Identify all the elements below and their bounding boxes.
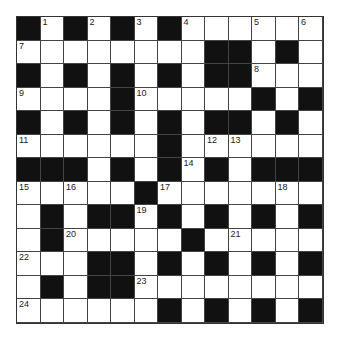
answer-cell[interactable] (229, 252, 253, 276)
answer-cell[interactable] (182, 41, 206, 65)
answer-cell[interactable]: 7 (17, 41, 41, 65)
answer-cell[interactable]: 21 (229, 229, 253, 253)
answer-cell[interactable] (182, 252, 206, 276)
answer-cell[interactable]: 1 (41, 17, 65, 41)
answer-cell[interactable]: 5 (252, 17, 276, 41)
answer-cell[interactable] (111, 135, 135, 159)
answer-cell[interactable] (41, 252, 65, 276)
answer-cell[interactable]: 11 (17, 135, 41, 159)
answer-cell[interactable] (41, 299, 65, 323)
answer-cell[interactable] (205, 229, 229, 253)
answer-cell[interactable] (276, 276, 300, 300)
answer-cell[interactable] (252, 229, 276, 253)
answer-cell[interactable]: 14 (182, 158, 206, 182)
answer-cell[interactable] (229, 205, 253, 229)
answer-cell[interactable]: 3 (135, 17, 159, 41)
answer-cell[interactable] (64, 276, 88, 300)
answer-cell[interactable]: 9 (17, 88, 41, 112)
answer-cell[interactable] (111, 229, 135, 253)
answer-cell[interactable] (88, 299, 112, 323)
answer-cell[interactable] (229, 276, 253, 300)
answer-cell[interactable] (182, 88, 206, 112)
answer-cell[interactable]: 17 (158, 182, 182, 206)
answer-cell[interactable] (205, 182, 229, 206)
answer-cell[interactable] (41, 41, 65, 65)
answer-cell[interactable] (276, 17, 300, 41)
answer-cell[interactable] (276, 229, 300, 253)
answer-cell[interactable] (41, 64, 65, 88)
answer-cell[interactable]: 2 (88, 17, 112, 41)
answer-cell[interactable] (135, 41, 159, 65)
answer-cell[interactable] (158, 276, 182, 300)
answer-cell[interactable] (182, 182, 206, 206)
answer-cell[interactable] (17, 276, 41, 300)
answer-cell[interactable] (299, 41, 323, 65)
answer-cell[interactable] (64, 252, 88, 276)
answer-cell[interactable]: 22 (17, 252, 41, 276)
answer-cell[interactable] (64, 205, 88, 229)
answer-cell[interactable] (41, 88, 65, 112)
answer-cell[interactable]: 13 (229, 135, 253, 159)
answer-cell[interactable] (111, 41, 135, 65)
answer-cell[interactable] (64, 299, 88, 323)
answer-cell[interactable] (88, 41, 112, 65)
answer-cell[interactable] (205, 88, 229, 112)
answer-cell[interactable] (41, 182, 65, 206)
answer-cell[interactable] (64, 88, 88, 112)
answer-cell[interactable] (276, 252, 300, 276)
answer-cell[interactable] (182, 135, 206, 159)
answer-cell[interactable] (252, 135, 276, 159)
answer-cell[interactable] (299, 229, 323, 253)
answer-cell[interactable]: 8 (252, 64, 276, 88)
answer-cell[interactable] (276, 64, 300, 88)
answer-cell[interactable] (205, 276, 229, 300)
answer-cell[interactable] (88, 88, 112, 112)
answer-cell[interactable] (299, 276, 323, 300)
answer-cell[interactable] (88, 64, 112, 88)
answer-cell[interactable]: 16 (64, 182, 88, 206)
answer-cell[interactable] (64, 135, 88, 159)
answer-cell[interactable]: 20 (64, 229, 88, 253)
answer-cell[interactable] (135, 158, 159, 182)
answer-cell[interactable]: 4 (182, 17, 206, 41)
answer-cell[interactable] (252, 276, 276, 300)
answer-cell[interactable]: 18 (276, 182, 300, 206)
answer-cell[interactable] (41, 111, 65, 135)
answer-cell[interactable] (158, 229, 182, 253)
answer-cell[interactable] (182, 276, 206, 300)
answer-cell[interactable]: 24 (17, 299, 41, 323)
answer-cell[interactable]: 15 (17, 182, 41, 206)
answer-cell[interactable] (229, 158, 253, 182)
answer-cell[interactable] (135, 299, 159, 323)
answer-cell[interactable] (111, 299, 135, 323)
answer-cell[interactable] (135, 252, 159, 276)
answer-cell[interactable] (182, 299, 206, 323)
answer-cell[interactable]: 6 (299, 17, 323, 41)
answer-cell[interactable] (135, 111, 159, 135)
answer-cell[interactable] (158, 88, 182, 112)
answer-cell[interactable] (17, 229, 41, 253)
answer-cell[interactable] (17, 205, 41, 229)
answer-cell[interactable] (229, 17, 253, 41)
answer-cell[interactable]: 19 (135, 205, 159, 229)
answer-cell[interactable] (182, 64, 206, 88)
answer-cell[interactable] (276, 135, 300, 159)
answer-cell[interactable] (64, 41, 88, 65)
answer-cell[interactable] (88, 111, 112, 135)
answer-cell[interactable] (276, 88, 300, 112)
answer-cell[interactable] (88, 135, 112, 159)
answer-cell[interactable]: 12 (205, 135, 229, 159)
answer-cell[interactable] (205, 17, 229, 41)
answer-cell[interactable] (299, 182, 323, 206)
answer-cell[interactable] (158, 41, 182, 65)
answer-cell[interactable] (229, 182, 253, 206)
answer-cell[interactable] (41, 135, 65, 159)
answer-cell[interactable] (276, 205, 300, 229)
answer-cell[interactable] (299, 64, 323, 88)
answer-cell[interactable] (299, 111, 323, 135)
answer-cell[interactable] (229, 88, 253, 112)
answer-cell[interactable]: 23 (135, 276, 159, 300)
answer-cell[interactable] (135, 64, 159, 88)
answer-cell[interactable] (182, 111, 206, 135)
answer-cell[interactable] (252, 111, 276, 135)
